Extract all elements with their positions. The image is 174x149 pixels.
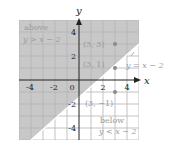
point-3-neg1 <box>113 90 117 94</box>
svg-text:4: 4 <box>71 28 76 37</box>
svg-text:2: 2 <box>71 52 76 61</box>
svg-text:y > x − 2: y > x − 2 <box>22 35 61 44</box>
point-label-3-1: (3, 1) <box>83 60 105 69</box>
svg-text:below: below <box>100 116 124 125</box>
point-label-3-neg1: (3, −1) <box>85 99 113 108</box>
svg-text:-2: -2 <box>50 83 58 92</box>
svg-text:y < x − 2: y < x − 2 <box>98 127 137 136</box>
point-label-3-3: (3, 3) <box>83 40 105 49</box>
svg-text:2: 2 <box>100 83 105 92</box>
point-3-3 <box>113 42 117 46</box>
line-label: y = x − 2 <box>125 61 164 70</box>
svg-text:-2: -2 <box>68 100 76 109</box>
x-axis-label: x <box>144 75 150 86</box>
point-3-1 <box>113 66 117 70</box>
svg-text:above: above <box>24 23 48 32</box>
svg-text:-4: -4 <box>26 83 34 92</box>
svg-text:0: 0 <box>69 83 74 92</box>
y-axis-label: y <box>75 5 82 16</box>
coordinate-plane: x y -4 -2 0 2 4 4 2 -2 -4 above y > x − … <box>0 0 174 149</box>
svg-text:4: 4 <box>124 83 129 92</box>
svg-text:-4: -4 <box>68 124 76 133</box>
